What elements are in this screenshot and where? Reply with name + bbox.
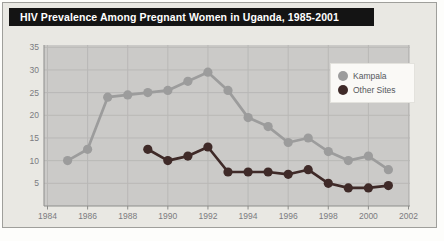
other-sites-point-1997 (304, 165, 313, 174)
kampala-point-1988 (123, 90, 132, 99)
kampala-point-1993 (223, 86, 232, 95)
kampala-point-2001 (384, 165, 393, 174)
x-tick-label-1988: 1988 (118, 211, 137, 221)
x-tick-label-1992: 1992 (198, 211, 217, 221)
other-sites-point-1999 (344, 183, 353, 192)
kampala-point-1992 (203, 68, 212, 77)
other-sites-point-1996 (284, 170, 293, 179)
legend-label-kampala: Kampala (353, 71, 387, 81)
other-sites-point-1994 (244, 167, 253, 176)
x-tick-label-1998: 1998 (319, 211, 338, 221)
x-tick-label-1986: 1986 (78, 211, 97, 221)
legend-label-other-sites: Other Sites (353, 85, 396, 95)
y-tick-label-30: 30 (30, 65, 40, 75)
other-sites-point-2001 (384, 181, 393, 190)
y-tick-label-35: 35 (30, 42, 40, 52)
kampala-point-1987 (103, 93, 112, 102)
legend: Kampala Other Sites (330, 63, 415, 103)
chart-canvas: 5101520253035198419861988199019921994199… (0, 0, 444, 241)
y-tick-label-10: 10 (30, 156, 40, 166)
kampala-point-1994 (244, 113, 253, 122)
legend-item-other-sites: Other Sites (338, 85, 414, 95)
other-sites-point-1989 (143, 145, 152, 154)
y-tick-label-25: 25 (30, 88, 40, 98)
screenshot-page: HIV Prevalence Among Pregnant Women in U… (0, 0, 444, 241)
other-sites-point-1995 (264, 167, 273, 176)
x-tick-label-2000: 2000 (359, 211, 378, 221)
other-sites-point-1991 (183, 152, 192, 161)
other-sites-point-1990 (163, 156, 172, 165)
kampala-point-1985 (63, 156, 72, 165)
x-tick-label-1994: 1994 (239, 211, 258, 221)
x-tick-label-1984: 1984 (38, 211, 57, 221)
other-sites-point-1998 (324, 179, 333, 188)
kampala-point-1996 (284, 138, 293, 147)
x-tick-label-1996: 1996 (279, 211, 298, 221)
y-tick-label-5: 5 (34, 178, 39, 188)
y-tick-label-15: 15 (30, 133, 40, 143)
other-sites-point-1993 (223, 167, 232, 176)
kampala-point-1995 (264, 122, 273, 131)
other-sites-point-2000 (364, 183, 373, 192)
kampala-point-1998 (324, 147, 333, 156)
x-tick-label-2002: 2002 (399, 211, 418, 221)
kampala-point-1989 (143, 88, 152, 97)
kampala-point-1986 (83, 145, 92, 154)
other-sites-point-1992 (203, 142, 212, 151)
kampala-point-1991 (183, 77, 192, 86)
kampala-point-1990 (163, 86, 172, 95)
kampala-point-1997 (304, 133, 313, 142)
y-tick-label-20: 20 (30, 110, 40, 120)
legend-item-kampala: Kampala (338, 71, 414, 81)
kampala-marker-icon (338, 71, 348, 81)
kampala-point-2000 (364, 152, 373, 161)
kampala-point-1999 (344, 156, 353, 165)
x-tick-label-1990: 1990 (158, 211, 177, 221)
other-sites-marker-icon (338, 85, 348, 95)
